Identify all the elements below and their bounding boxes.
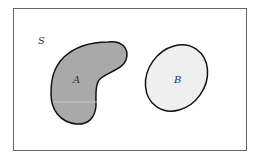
set-b-label: B: [173, 74, 181, 85]
universe-label-s: S: [38, 35, 45, 46]
set-a-label: A: [72, 74, 80, 85]
venn-diagram: S A B: [0, 0, 258, 162]
universe-set-s: [14, 9, 247, 151]
